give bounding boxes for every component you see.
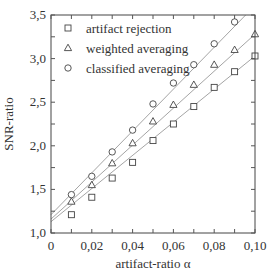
y-tick-labels: 1,01,52,02,53,03,5: [30, 7, 46, 240]
x-tick-label: 0: [48, 238, 55, 253]
x-axis-title: artifact-ratio α: [115, 256, 190, 271]
circle-marker: [129, 127, 135, 133]
x-tick-labels: 00,020,040,060,080,10: [48, 238, 267, 253]
legend-label: classified averaging: [86, 61, 190, 76]
y-tick-label: 3,0: [30, 51, 46, 66]
x-tick-label: 0,06: [162, 238, 185, 253]
y-tick-label: 1,0: [30, 225, 46, 240]
x-tick-label: 0,10: [244, 238, 267, 253]
circle-marker: [170, 80, 176, 86]
square-marker: [68, 212, 74, 218]
circle-marker: [211, 41, 217, 47]
x-tick-label: 0,02: [80, 238, 103, 253]
circle-marker: [68, 191, 74, 197]
snr-ratio-chart: 00,020,040,060,080,10 1,01,52,02,53,03,5…: [0, 0, 279, 275]
y-tick-label: 1,5: [30, 181, 46, 196]
x-tick-label: 0,04: [121, 238, 144, 253]
square-marker: [232, 69, 238, 75]
circle-marker: [231, 19, 237, 25]
y-tick-label: 3,5: [30, 7, 46, 22]
square-marker: [130, 159, 136, 165]
legend-label: artifact rejection: [86, 21, 172, 36]
triangle-marker: [109, 159, 116, 165]
legend: artifact rejectionweighted averagingclas…: [64, 21, 190, 76]
square-marker: [150, 138, 156, 144]
square-marker: [191, 104, 197, 110]
circle-marker: [150, 101, 156, 107]
triangle-marker: [170, 101, 177, 107]
triangle-marker: [211, 61, 218, 67]
square-marker: [89, 194, 95, 200]
y-tick-label: 2,0: [30, 138, 46, 153]
triangle-marker: [149, 118, 156, 124]
legend-label: weighted averaging: [86, 41, 189, 56]
y-tick-label: 2,5: [30, 94, 46, 109]
square-marker: [109, 175, 115, 181]
circle-marker: [191, 62, 197, 68]
circle-marker: [89, 173, 95, 179]
square-marker: [211, 84, 217, 90]
triangle-marker: [64, 44, 71, 50]
circle-marker: [65, 65, 71, 71]
square-marker: [65, 25, 71, 31]
x-tick-label: 0,08: [203, 238, 226, 253]
triangle-marker: [190, 81, 197, 87]
circle-marker: [109, 149, 115, 155]
square-marker: [170, 121, 176, 127]
y-axis-title: SNR-ratio: [1, 97, 16, 150]
triangle-marker: [231, 46, 238, 52]
